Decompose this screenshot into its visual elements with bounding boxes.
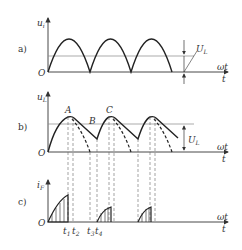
panel-a-level-label: UL [196,44,208,55]
pulse-hatching [52,199,149,222]
panel-b-filtered-waveform [48,117,178,152]
panel-b: b) uL O ωt t A B C UL [18,92,228,222]
panel-c: c) iF O ωt t t1 t2 t3 t4 [18,180,228,237]
panel-a: a) ui O ωt t UL [18,18,228,84]
panel-a-origin: O [38,68,46,78]
panel-b-origin: O [38,148,46,158]
panel-a-x-label-wt: ωt [217,62,228,72]
panel-b-level-label: UL [188,135,200,146]
panel-a-leader-line [184,51,197,72]
panel-a-rectified-waveform [48,39,172,72]
t3-label: t3 [87,226,95,237]
panel-a-label: a) [18,44,27,54]
t2-label: t2 [72,226,80,237]
point-a-label: A [64,105,72,115]
point-b-label: B [88,116,96,126]
panel-a-x-label-t: t [222,74,226,84]
panel-b-label: b) [18,122,27,132]
t4-label: t4 [95,226,103,237]
panel-b-x-label-t: t [222,154,226,164]
t1-label: t1 [63,226,70,237]
panel-c-y-label: iF [37,180,45,191]
panel-b-y-label: uL [37,92,47,103]
rectifier-waveform-diagram: a) ui O ωt t UL b) uL O ωt t [0,0,242,250]
panel-c-origin: O [38,218,46,228]
panel-c-x-label-t: t [222,224,226,234]
panel-c-label: c) [18,197,27,207]
panel-c-x-label-wt: ωt [217,212,228,222]
panel-a-y-label: ui [37,18,45,29]
point-c-label: C [106,105,113,115]
pulse-1 [48,195,68,222]
panel-b-x-label-wt: ωt [217,142,228,152]
